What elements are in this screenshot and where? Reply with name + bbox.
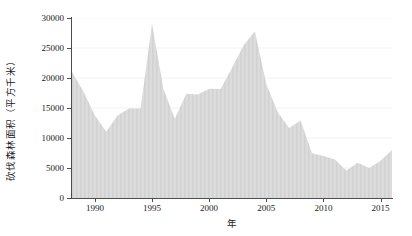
x-tick-label: 2010	[303, 203, 343, 213]
y-tick-mark	[67, 138, 71, 139]
y-tick-label: 5000	[46, 164, 64, 173]
y-tick-label: 25000	[42, 44, 65, 53]
x-axis-title: 年	[72, 216, 392, 230]
x-tick-label: 2015	[361, 203, 401, 213]
y-tick-mark	[67, 78, 71, 79]
x-tick-label: 2000	[189, 203, 229, 213]
y-tick-label: 0	[60, 194, 65, 203]
x-tick-mark	[152, 198, 153, 202]
y-tick-mark	[67, 108, 71, 109]
area-series-deforestation	[72, 24, 392, 198]
y-tick-label: 10000	[42, 134, 65, 143]
y-tick-label: 15000	[42, 104, 65, 113]
plot-area	[72, 18, 392, 198]
y-tick-mark	[67, 48, 71, 49]
x-tick-mark	[323, 198, 324, 202]
y-tick-mark	[67, 198, 71, 199]
y-axis-title: 砍伐森林面积（平方千米）	[0, 0, 20, 236]
y-axis-line	[71, 17, 72, 199]
x-tick-mark	[95, 198, 96, 202]
x-tick-mark	[266, 198, 267, 202]
x-tick-label: 2005	[246, 203, 286, 213]
y-tick-mark	[67, 18, 71, 19]
x-tick-label: 1990	[75, 203, 115, 213]
x-tick-mark	[209, 198, 210, 202]
y-tick-label: 20000	[42, 74, 65, 83]
x-tick-mark	[381, 198, 382, 202]
x-axis-line	[71, 198, 393, 199]
area-chart-svg	[72, 18, 392, 198]
x-tick-label: 1995	[132, 203, 172, 213]
y-tick-mark	[67, 168, 71, 169]
y-tick-label: 30000	[42, 14, 65, 23]
chart-figure: 砍伐森林面积（平方千米） 050001000015000200002500030…	[0, 0, 412, 236]
